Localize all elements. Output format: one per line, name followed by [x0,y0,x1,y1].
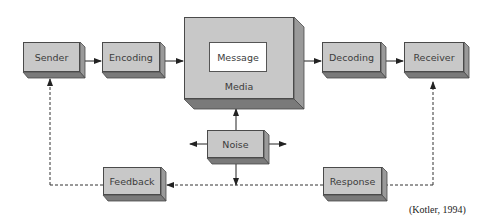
decoding-label: Decoding [322,42,381,72]
feedback-box: Feedback [103,167,161,195]
message-label: Message [217,52,259,63]
noise-label: Noise [207,130,264,158]
encoding-box: Encoding [102,42,160,72]
response-label: Response [323,167,382,195]
feedback-label: Feedback [103,167,161,195]
sender-box: Sender [23,42,80,72]
media-face: Message Media [184,17,294,99]
sender-label: Sender [23,42,80,72]
response-box: Response [323,167,382,195]
communication-diagram: Sender Encoding Message Media Decoding [0,0,489,224]
decoding-box: Decoding [322,42,381,72]
receiver-box: Receiver [404,42,464,72]
receiver-label: Receiver [404,42,464,72]
media-label: Media [185,81,293,92]
message-box: Message [209,42,267,72]
media-box: Message Media [184,17,294,99]
citation: (Kotler, 1994) [409,204,466,215]
noise-box: Noise [207,130,264,158]
encoding-label: Encoding [102,42,160,72]
